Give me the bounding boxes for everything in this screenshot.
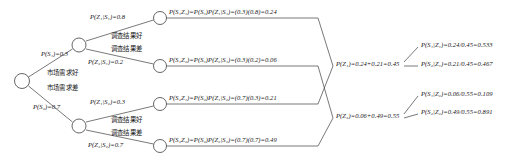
probability-tree-diagram: P(S₁)=0.3 市场需求好 市场需求差 P(S₂)=0.7 P(Z₁|S₁)…: [0, 0, 524, 162]
marginal-z1: P(Z₁)=0.24+0.21=0.45: [336, 61, 399, 68]
posterior-s1-given-z2: P(S₁|Z₂)=0.06/0.55=0.109: [421, 91, 493, 98]
cond-s1z1-cn-label: 调查结果好: [111, 33, 142, 39]
root-node: [15, 74, 30, 89]
prior-bad-cn-label: 市场需求差: [47, 85, 78, 91]
edge-join-z2-lower: [318, 118, 333, 146]
joint-s1z2: P(S₁Z₂)=P(S₁)P(Z₂|S₁)=(0.3)(0.2)=0.06: [169, 57, 277, 64]
edge-join-z2-upper: [318, 66, 333, 118]
edge-z2-to-post2: [404, 114, 418, 118]
joint-s2z1: P(S₂Z₁)=P(S₂)P(Z₁|S₂)=(0.7)(0.3)=0.21: [169, 95, 277, 102]
cond-s2z2-cn-label: 调查结果差: [111, 130, 142, 136]
state-bad-node: [72, 119, 86, 133]
prior-good-cn-label: 市场需求好: [47, 70, 78, 76]
outcome-s2z2-node: [154, 140, 167, 153]
marginal-z2: P(Z₂)=0.06+0.49=0.55: [336, 113, 399, 120]
joint-s2z2: P(S₂Z₂)=P(S₂)P(Z₂|S₂)=(0.7)(0.7)=0.49: [169, 137, 277, 144]
edge-join-z1-lower: [318, 66, 333, 104]
edge-join-z1-upper: [318, 18, 333, 66]
prior-bad-prob-label: P(S₂)=0.7: [33, 104, 60, 111]
outcome-s2z1-node: [154, 98, 167, 111]
cond-s2z1-cn-label: 调查结果好: [111, 117, 142, 123]
prior-good-prob-label: P(S₁)=0.3: [41, 51, 68, 58]
cond-s2z1-prob-label: P(Z₁|S₂)=0.3: [90, 99, 125, 106]
joint-s1z1: P(S₁Z₁)=P(S₁)P(Z₁|S₁)=(0.3)(0.8)=0.24: [169, 9, 277, 16]
cond-s1z1-prob-label: P(Z₁|S₁)=0.8: [90, 14, 125, 21]
posterior-s2-given-z1: P(S₂|Z₁)=0.21/0.45=0.467: [421, 61, 493, 68]
cond-s2z2-prob-label: P(Z₂|S₂)=0.7: [88, 142, 123, 149]
edge-z1-to-post1: [404, 47, 418, 62]
edge-z2-to-post1: [404, 96, 418, 114]
state-good-node: [72, 38, 86, 52]
posterior-s1-given-z1: P(S₁|Z₁)=0.24/0.45=0.533: [421, 42, 493, 49]
outcome-s1z2-node: [154, 60, 167, 73]
cond-s1z2-cn-label: 调查结果差: [111, 46, 142, 52]
cond-s1z2-prob-label: P(Z₂|S₁)=0.2: [88, 59, 123, 66]
outcome-s1z1-node: [154, 12, 167, 25]
posterior-s2-given-z2: P(S₂|Z₂)=0.49/0.55=0.891: [421, 109, 493, 116]
